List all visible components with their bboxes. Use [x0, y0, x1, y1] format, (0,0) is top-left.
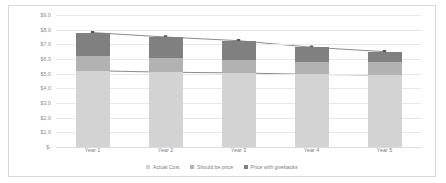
- bar-group[interactable]: [222, 15, 256, 147]
- bar-segment[interactable]: [149, 37, 183, 58]
- y-axis-tick-label: $8.0: [41, 27, 52, 33]
- y-axis-tick-label: $3.0: [41, 100, 52, 106]
- bar-segment[interactable]: [76, 33, 110, 56]
- y-axis-tick-label: $-: [46, 144, 51, 150]
- y-axis-tick-label: $2.0: [41, 115, 52, 121]
- y-axis-tick-label: $9.0: [41, 12, 52, 18]
- y-axis-tick-label: $4.0: [41, 85, 52, 91]
- bar-segment[interactable]: [295, 74, 329, 147]
- bar-group[interactable]: [295, 15, 329, 147]
- bar-group[interactable]: [368, 15, 402, 147]
- bar-segment[interactable]: [222, 60, 256, 73]
- legend-swatch-icon: [190, 165, 194, 169]
- bar-group[interactable]: [149, 15, 183, 147]
- x-axis-tick-label: Year 5: [368, 147, 402, 153]
- x-axis-tick-label: Year 3: [222, 147, 256, 153]
- legend-item-label: Price with givebacks: [251, 164, 298, 170]
- y-axis-tick-label: $5.0: [41, 71, 52, 77]
- bar-segment[interactable]: [295, 62, 329, 74]
- chart-container: $9.0$8.0$7.0$6.0$5.0$4.0$3.0$2.0$1.0$-Ye…: [8, 5, 436, 177]
- bar-segment[interactable]: [368, 62, 402, 75]
- bar-segment[interactable]: [149, 72, 183, 147]
- bar-segment[interactable]: [76, 56, 110, 71]
- bar-group[interactable]: [76, 15, 110, 147]
- chart-legend: Actual CostShould be pricePrice with giv…: [9, 164, 435, 170]
- bar-segment[interactable]: [222, 41, 256, 60]
- plot-area: $9.0$8.0$7.0$6.0$5.0$4.0$3.0$2.0$1.0$-Ye…: [56, 15, 421, 147]
- legend-item-label: Should be price: [197, 164, 233, 170]
- legend-item-label: Actual Cost: [153, 164, 180, 170]
- bar-segment[interactable]: [222, 73, 256, 147]
- legend-swatch-icon: [244, 165, 248, 169]
- x-axis-tick-label: Year 4: [295, 147, 329, 153]
- x-axis-tick-label: Year 1: [76, 147, 110, 153]
- y-axis-tick-label: $1.0: [41, 129, 52, 135]
- y-axis-tick-label: $6.0: [41, 56, 52, 62]
- legend-swatch-icon: [146, 165, 150, 169]
- legend-item[interactable]: Price with givebacks: [244, 164, 298, 170]
- x-axis-tick-label: Year 2: [149, 147, 183, 153]
- bar-segment[interactable]: [368, 75, 402, 147]
- legend-item[interactable]: Actual Cost: [146, 164, 179, 170]
- bar-segment[interactable]: [368, 52, 402, 62]
- bar-segment[interactable]: [76, 71, 110, 147]
- legend-item[interactable]: Should be price: [190, 164, 233, 170]
- bar-segment[interactable]: [149, 58, 183, 72]
- bar-segment[interactable]: [295, 47, 329, 62]
- y-axis-tick-label: $7.0: [41, 41, 52, 47]
